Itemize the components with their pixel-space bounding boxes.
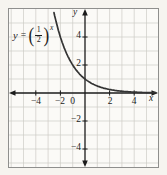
y-axis-label: y xyxy=(73,8,77,17)
fraction: 1 2 xyxy=(35,26,42,44)
x-axis-label: x xyxy=(149,94,153,103)
fraction-denominator: 2 xyxy=(35,36,42,45)
equals-sign: = xyxy=(21,30,26,40)
x-tick-label: −4 xyxy=(28,97,44,106)
x-tick-label: −2 xyxy=(52,97,68,106)
close-paren-glyph: ) xyxy=(43,24,49,46)
y-tick-label: −4 xyxy=(62,143,81,152)
origin-label: 0 xyxy=(68,97,77,106)
x-tick-label: 4 xyxy=(126,97,142,106)
equation-variable: y xyxy=(13,30,18,41)
open-paren-glyph: ( xyxy=(29,24,35,46)
y-tick-label: 4 xyxy=(62,31,81,40)
equation-label: y = ( 1 2 ) x xyxy=(13,23,53,47)
x-tick-label: 2 xyxy=(102,97,118,106)
equation-exponent: x xyxy=(50,23,53,32)
exponential-decay-graph-figure: y = ( 1 2 ) x y x 0 −4 −2 2 4 4 2 −2 −4 xyxy=(0,0,167,175)
y-tick-label: −2 xyxy=(62,115,81,124)
y-tick-label: 2 xyxy=(62,59,81,68)
